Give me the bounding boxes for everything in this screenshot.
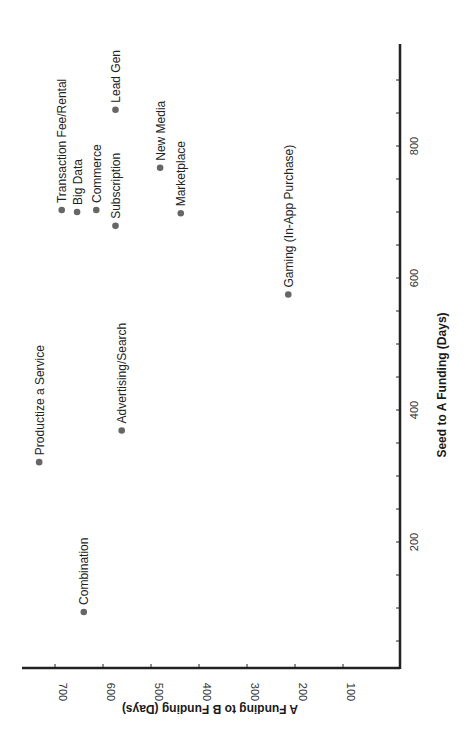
point-label: New Media — [154, 100, 168, 160]
data-point: Productize a Service — [33, 345, 47, 466]
axes: 100200300400500600700200400600800A Fundi… — [22, 44, 449, 716]
point-marker — [112, 223, 119, 230]
point-marker — [112, 106, 119, 113]
x-tick-label: 800 — [408, 137, 420, 155]
point-marker — [285, 291, 292, 298]
y-tick-label: 300 — [249, 683, 261, 701]
scatter-chart: 100200300400500600700200400600800A Fundi… — [0, 0, 471, 745]
point-marker — [93, 207, 100, 214]
point-marker — [74, 209, 81, 216]
data-point: Advertising/Search — [115, 323, 129, 434]
point-label: Transaction Fee/Rental — [55, 79, 69, 203]
point-label: Subscription — [109, 153, 123, 219]
point-marker — [36, 459, 43, 466]
point-marker — [58, 207, 65, 214]
data-point: Marketplace — [174, 141, 188, 217]
y-tick-label: 100 — [345, 683, 357, 701]
point-label: Combination — [77, 538, 91, 605]
data-point: Lead Gen — [109, 50, 123, 113]
point-marker — [177, 210, 184, 217]
point-marker — [81, 609, 88, 616]
y-tick-label: 500 — [153, 683, 165, 701]
x-tick-label: 600 — [408, 269, 420, 287]
point-label: Advertising/Search — [115, 323, 129, 424]
data-points: Productize a ServiceCombinationAdvertisi… — [33, 50, 296, 615]
x-tick-label: 400 — [408, 401, 420, 419]
point-label: Gaming (In-App Purchase) — [282, 145, 296, 288]
y-tick-label: 200 — [297, 683, 309, 701]
point-label: Productize a Service — [33, 345, 47, 455]
point-label: Big Data — [71, 159, 85, 205]
point-label: Marketplace — [174, 141, 188, 207]
x-tick-label: 200 — [408, 533, 420, 551]
y-axis-title: A Funding to B Funding (Days) — [122, 702, 298, 716]
data-point: Commerce — [90, 144, 104, 213]
x-axis-title: Seed to A Funding (Days) — [435, 312, 449, 457]
y-tick-label: 700 — [57, 683, 69, 701]
point-marker — [157, 164, 164, 171]
data-point: Transaction Fee/Rental — [55, 79, 69, 214]
data-point: New Media — [154, 100, 168, 171]
data-point: Combination — [77, 538, 91, 616]
y-tick-label: 400 — [201, 683, 213, 701]
data-point: Gaming (In-App Purchase) — [282, 145, 296, 298]
point-label: Lead Gen — [109, 50, 123, 103]
data-point: Big Data — [71, 159, 85, 216]
point-marker — [118, 427, 125, 434]
y-tick-label: 600 — [105, 683, 117, 701]
data-point: Subscription — [109, 153, 123, 229]
point-label: Commerce — [90, 144, 104, 203]
